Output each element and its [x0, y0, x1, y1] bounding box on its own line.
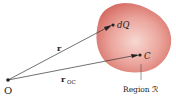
region-blob: [96, 3, 171, 72]
c-point: [138, 53, 141, 56]
origin-point: [6, 78, 10, 82]
c-label: C: [144, 51, 151, 61]
diagram-canvas: O r r OC dQ C Region ℛ: [0, 0, 176, 98]
dq-label: dQ: [117, 20, 129, 30]
vector-roc-subscript: OC: [67, 79, 76, 85]
region-label: Region ℛ: [123, 85, 159, 94]
vector-roc-label: r: [61, 74, 66, 84]
vector-r-line: [8, 26, 110, 80]
dq-point: [111, 23, 114, 26]
origin-label: O: [4, 85, 12, 96]
